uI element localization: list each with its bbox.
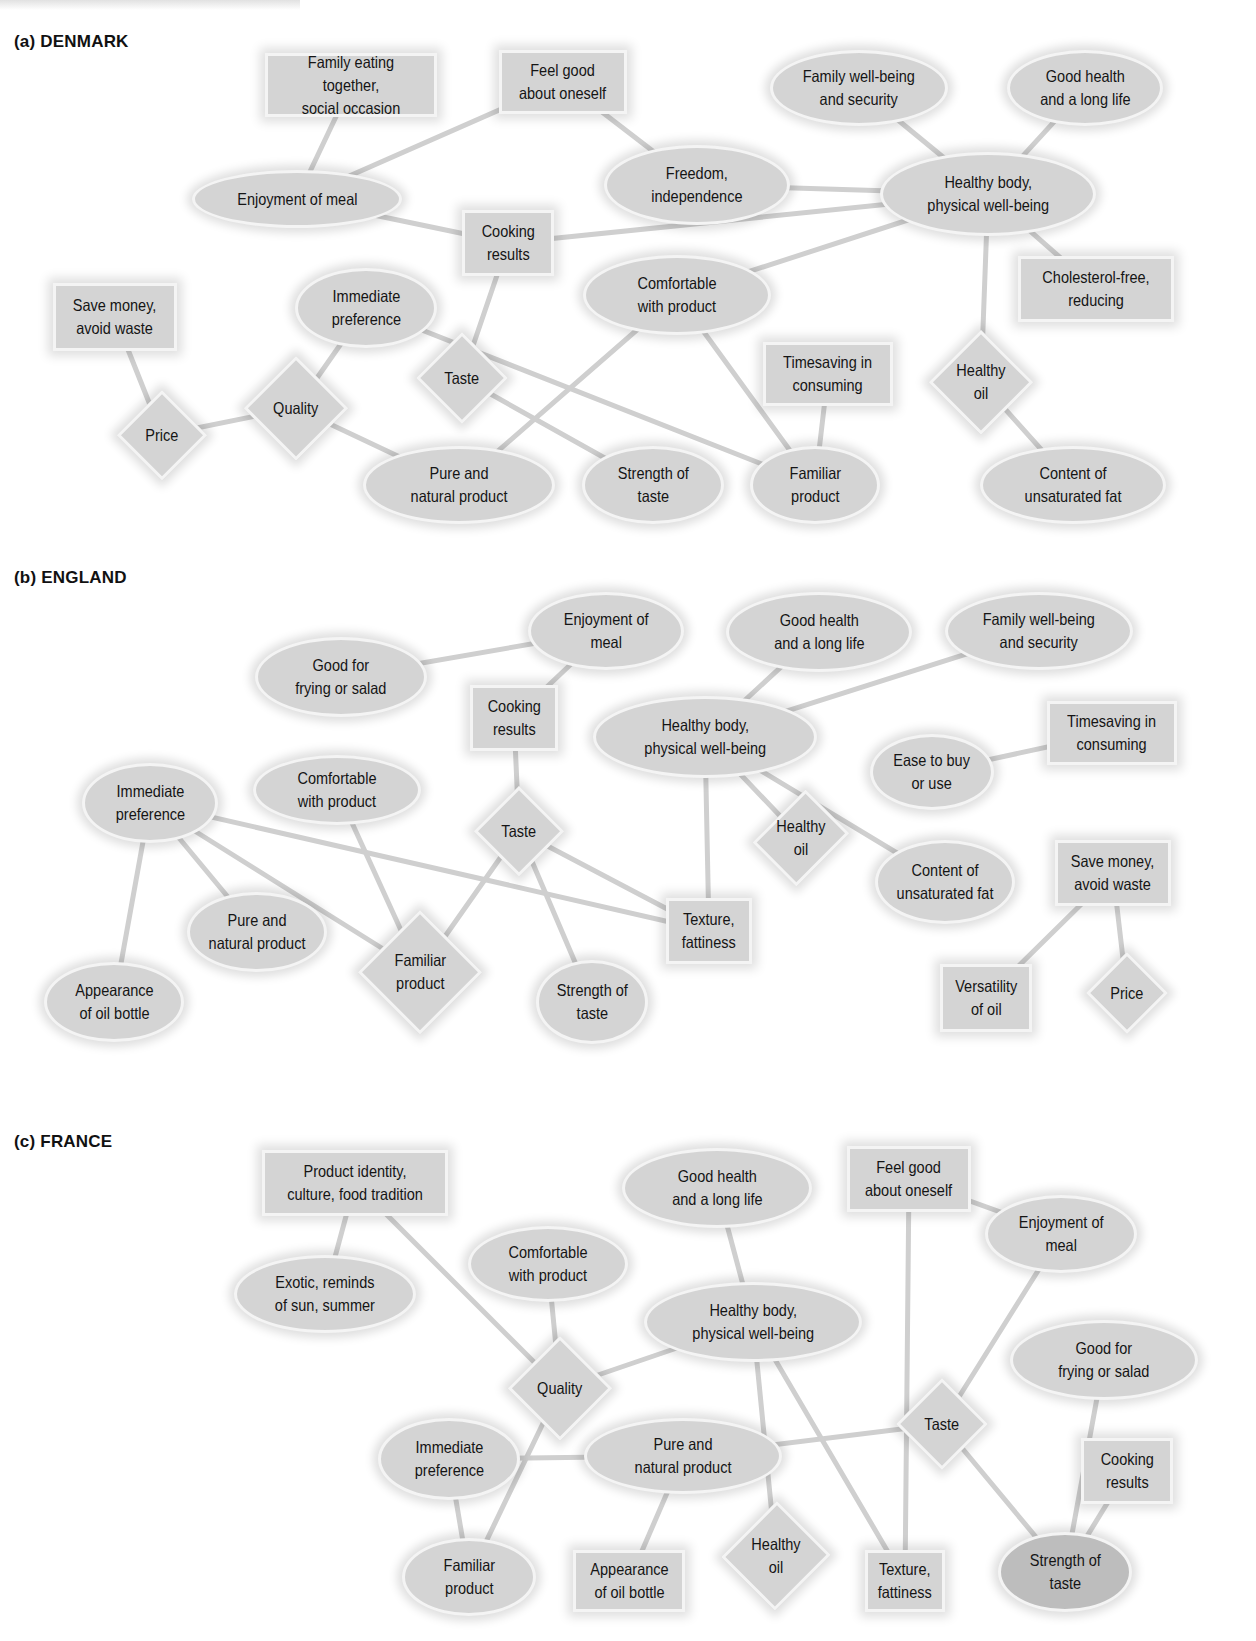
node-label: Healthy oil [776,815,825,861]
node-label: Cooking results [481,220,534,266]
node-label: Good for frying or salad [1058,1337,1149,1383]
node-label: Immediate preference [115,780,184,826]
node-label: Texture, fattiness [878,1558,932,1604]
node-e-healthy-oil: Healthy oil [757,785,845,891]
node-e-content: Content of unsaturated fat [875,840,1015,924]
node-label: Strength of taste [556,979,627,1025]
node-f-immediate: Immediate preference [378,1418,520,1500]
node-label: Immediate preference [331,285,400,331]
node-d-quality: Quality [244,356,348,460]
node-label: Appearance of oil bottle [75,979,153,1025]
node-f-strength: Strength of taste [998,1532,1132,1612]
node-f-pure: Pure and natural product [584,1418,782,1494]
node-label: Timesaving in consuming [783,351,872,397]
node-e-good-health: Good health and a long life [726,592,912,672]
node-label: Comfortable with product [637,272,716,318]
node-d-cholesterol: Cholesterol-free, reducing [1018,256,1174,322]
node-f-cooking: Cooking results [1081,1438,1173,1504]
node-label: Good health and a long life [672,1165,762,1211]
node-label: Cholesterol-free, reducing [1042,266,1149,312]
node-d-familiar: Familiar product [750,446,880,524]
node-label: Freedom, independence [651,162,742,208]
node-label: Good health and a long life [774,609,864,655]
node-label: Family well-being and security [983,608,1095,654]
node-f-product-identity: Product identity, culture, food traditio… [262,1150,448,1216]
node-d-enjoyment: Enjoyment of meal [192,170,402,228]
node-e-versatility: Versatility of oil [940,964,1032,1032]
node-e-cooking: Cooking results [470,685,558,751]
node-label: Price [145,424,178,447]
node-label: Texture, fattiness [682,908,736,954]
node-d-family-wellbeing: Family well-being and security [770,50,948,126]
node-f-familiar: Familiar product [402,1538,536,1616]
node-e-healthy-body: Healthy body, physical well-being [593,696,817,778]
node-e-pure: Pure and natural product [187,892,327,972]
node-d-timesaving: Timesaving in consuming [763,342,893,406]
node-label: Content of unsaturated fat [897,859,994,905]
node-label: Feel good about oneself [519,59,606,105]
node-d-comfortable: Comfortable with product [583,255,771,335]
node-label: Feel good about oneself [865,1156,952,1202]
node-d-cooking: Cooking results [462,210,554,276]
node-f-feel-good: Feel good about oneself [847,1146,971,1212]
node-e-family-wellbeing: Family well-being and security [945,592,1133,670]
node-label: Product identity, culture, food traditio… [287,1160,423,1206]
node-e-ease: Ease to buy or use [870,734,994,810]
node-label: Good for frying or salad [295,654,386,700]
node-label: Quality [537,1377,582,1400]
node-f-comfortable: Comfortable with product [468,1226,628,1302]
node-d-feel-good: Feel good about oneself [499,50,627,114]
node-label: Healthy body, physical well-being [692,1299,814,1345]
node-label: Taste [445,367,480,390]
node-d-freedom: Freedom, independence [604,145,790,225]
node-f-taste: Taste [896,1378,988,1470]
node-d-pure: Pure and natural product [363,446,555,524]
node-f-texture: Texture, fattiness [865,1550,945,1612]
node-label: Good health and a long life [1040,65,1130,111]
node-f-quality: Quality [508,1336,612,1440]
node-label: Strength of taste [617,462,688,508]
node-label: Strength of taste [1029,1549,1100,1595]
node-d-save-money: Save money, avoid waste [53,283,177,351]
node-d-price: Price [117,390,207,480]
node-label: Comfortable with product [297,767,376,813]
node-label: Enjoyment of meal [564,608,649,654]
node-f-exotic: Exotic, reminds of sun, summer [234,1255,416,1333]
node-label: Pure and natural product [209,909,306,955]
node-f-healthy-body: Healthy body, physical well-being [644,1282,862,1362]
node-f-appearance: Appearance of oil bottle [573,1550,685,1612]
node-label: Timesaving in consuming [1067,710,1156,756]
node-e-price: Price [1086,952,1168,1034]
node-label: Appearance of oil bottle [590,1558,668,1604]
node-d-healthy-oil: Healthy oil [929,330,1033,434]
node-label: Cooking results [487,695,540,741]
node-label: Immediate preference [414,1436,483,1482]
node-d-healthy-body: Healthy body, physical well-being [880,152,1096,236]
section-title-denmark: (a) DENMARK [14,32,129,52]
node-e-taste: Taste [474,786,564,876]
node-label: Familiar product [443,1554,495,1600]
node-label: Healthy oil [751,1533,800,1579]
node-e-texture: Texture, fattiness [666,898,752,964]
section-title-france: (c) FRANCE [14,1132,112,1152]
node-e-save-money: Save money, avoid waste [1055,840,1171,906]
node-label: Price [1110,982,1143,1005]
node-e-immediate: Immediate preference [82,763,218,843]
node-d-family-eating: Family eating together, social occasion [265,53,437,117]
node-d-taste: Taste [416,332,508,424]
node-label: Familiar product [789,462,841,508]
node-f-good-health: Good health and a long life [622,1148,812,1228]
node-label: Family eating together, social occasion [278,51,424,120]
node-d-good-health: Good health and a long life [1007,50,1163,126]
node-label: Taste [925,1413,960,1436]
node-label: Healthy body, physical well-being [644,714,766,760]
node-e-timesaving: Timesaving in consuming [1047,701,1177,765]
node-label: Save money, avoid waste [1071,850,1155,896]
node-e-strength: Strength of taste [536,960,648,1044]
node-f-enjoyment: Enjoyment of meal [985,1195,1137,1273]
node-e-enjoyment: Enjoyment of meal [528,592,684,670]
node-d-strength: Strength of taste [582,446,724,524]
node-label: Familiar product [394,949,446,995]
node-e-appearance: Appearance of oil bottle [44,962,184,1042]
node-label: Enjoyment of meal [237,188,357,211]
